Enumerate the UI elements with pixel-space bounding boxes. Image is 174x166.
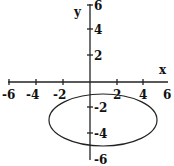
ellipse-graph: y x -6 -4 -2 2 4 6 6 4 2 -2 -4 -6 xyxy=(0,0,174,166)
x-tick-label: -2 xyxy=(53,88,66,102)
x-axis-label: x xyxy=(159,63,167,77)
x-tick-label: -6 xyxy=(2,88,15,102)
x-tick-label: 4 xyxy=(139,88,147,102)
y-tick-label: 4 xyxy=(94,23,102,37)
y-tick-label: 6 xyxy=(94,0,102,13)
y-tick-label: -2 xyxy=(94,101,107,115)
y-axis-label: y xyxy=(73,5,82,19)
x-tick-label: 6 xyxy=(163,88,171,102)
y-tick-label: -6 xyxy=(94,153,107,166)
x-tick-label: -4 xyxy=(26,88,39,102)
y-tick-label: -4 xyxy=(94,127,107,141)
y-tick-label: 2 xyxy=(94,49,102,63)
